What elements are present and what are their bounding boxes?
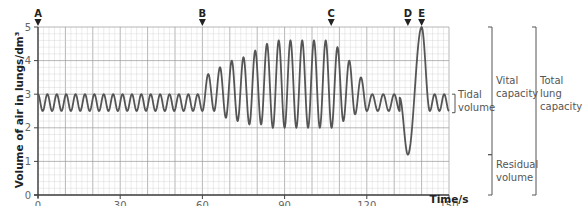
- marker-arrow-icon: [418, 19, 425, 26]
- annotation-text: lung: [540, 88, 562, 99]
- annotation-text: capacity: [540, 101, 582, 112]
- marker-a: A: [34, 8, 42, 26]
- marker-label: B: [199, 8, 207, 19]
- y-tick-label: 2: [25, 122, 31, 133]
- x-axis-title: Time/s: [430, 193, 469, 205]
- lung-volume-chart: 0123450306090120150 ABCDE Volume of air …: [0, 0, 586, 206]
- y-tick-label: 0: [25, 190, 31, 201]
- annotation-text: Residual: [496, 159, 538, 170]
- event-markers: ABCDE: [34, 8, 425, 26]
- marker-arrow-icon: [199, 19, 206, 26]
- annotation-text: Total: [539, 75, 563, 86]
- x-tick-label: 30: [114, 200, 127, 206]
- capacity-annotations: TidalvolumeVitalcapacityResidualvolumeTo…: [452, 27, 582, 195]
- y-tick-label: 4: [25, 55, 31, 66]
- tick-labels: 0123450306090120150: [25, 22, 459, 207]
- marker-c: C: [328, 8, 335, 26]
- vital-capacity-label: Vitalcapacity: [496, 75, 538, 99]
- annotation-text: capacity: [496, 88, 538, 99]
- marker-d: D: [404, 8, 412, 26]
- annotation-text: Vital: [496, 75, 518, 86]
- marker-label: E: [418, 8, 425, 19]
- y-tick-label: 3: [25, 89, 31, 100]
- y-tick-label: 5: [25, 22, 31, 33]
- residual-volume-label: Residualvolume: [496, 159, 538, 183]
- x-tick-label: 120: [357, 200, 376, 206]
- x-tick-label: 0: [35, 200, 41, 206]
- residual-volume-bracket: [488, 155, 492, 195]
- marker-label: D: [404, 8, 412, 19]
- y-tick-label: 1: [25, 156, 31, 167]
- y-axis-title: Volume of air in lungs/dm³: [13, 31, 25, 188]
- marker-label: C: [328, 8, 335, 19]
- tidal-volume-bracket: [452, 94, 455, 112]
- annotation-text: volume: [458, 102, 495, 113]
- volume-trace: [38, 27, 449, 155]
- x-tick-label: 90: [278, 200, 291, 206]
- marker-b: B: [199, 8, 207, 26]
- axes: [34, 27, 449, 198]
- annotation-text: volume: [496, 172, 533, 183]
- marker-arrow-icon: [328, 19, 335, 26]
- marker-arrow-icon: [35, 19, 42, 26]
- vital-capacity-bracket: [488, 27, 492, 155]
- x-tick-label: 60: [196, 200, 209, 206]
- total-lung-capacity-label: Totallungcapacity: [539, 75, 582, 112]
- marker-e: E: [418, 8, 425, 26]
- marker-label: A: [34, 8, 42, 19]
- marker-arrow-icon: [404, 19, 411, 26]
- tidal-volume-label: Tidalvolume: [457, 89, 495, 113]
- annotation-text: Tidal: [457, 89, 482, 100]
